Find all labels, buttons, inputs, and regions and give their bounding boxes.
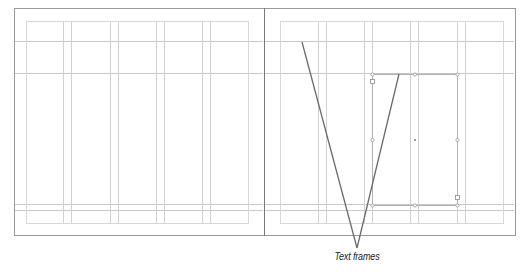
resize-handle[interactable] xyxy=(413,204,416,207)
resize-handle[interactable] xyxy=(413,73,416,76)
frame-center-point xyxy=(414,139,416,141)
guides-layer xyxy=(15,8,516,236)
resize-handle[interactable] xyxy=(456,138,459,141)
resize-handle[interactable] xyxy=(371,204,374,207)
callout-pointers xyxy=(302,42,399,248)
pointer-line xyxy=(302,42,357,248)
out-port[interactable] xyxy=(456,196,460,200)
resize-handle[interactable] xyxy=(371,73,374,76)
text-frame[interactable] xyxy=(371,73,460,207)
margin-guide xyxy=(27,22,249,224)
page-edge xyxy=(15,9,265,236)
callout-label: Text frames xyxy=(332,250,383,262)
resize-handle[interactable] xyxy=(371,138,374,141)
resize-handle[interactable] xyxy=(456,73,459,76)
left-page xyxy=(15,9,265,236)
margin-guide xyxy=(281,22,504,224)
page-spread-diagram xyxy=(0,0,526,275)
resize-handle[interactable] xyxy=(456,204,459,207)
in-port[interactable] xyxy=(371,80,375,84)
pointer-line xyxy=(357,74,399,248)
